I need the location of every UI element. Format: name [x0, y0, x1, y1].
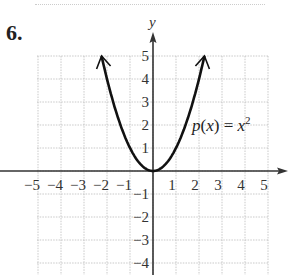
x-tick-label: −1	[116, 177, 132, 193]
x-tick-label: 1	[168, 177, 176, 193]
y-tick-label: −4	[133, 255, 149, 271]
x-tick-label: 5	[260, 177, 268, 193]
x-tick-label: 2	[191, 177, 199, 193]
y-tick-label: 3	[142, 94, 150, 110]
x-tick-label: −3	[70, 177, 86, 193]
y-tick-label: −2	[133, 209, 149, 225]
function-label: p(x) = x2	[191, 114, 251, 135]
y-tick-label: 2	[142, 117, 150, 133]
parabola-chart: y−5−4−3−2−11234554321−1−2−3−4p(x) = x2	[0, 0, 290, 275]
y-tick-label: −3	[133, 232, 149, 248]
x-tick-label: −5	[24, 177, 40, 193]
x-tick-label: −2	[93, 177, 109, 193]
x-tick-label: −4	[47, 177, 63, 193]
y-tick-label: 5	[142, 48, 150, 64]
y-axis-label: y	[147, 14, 156, 30]
x-tick-label: 4	[237, 177, 245, 193]
y-tick-label: 4	[142, 71, 150, 87]
y-tick-label: −1	[133, 186, 149, 202]
x-tick-label: 3	[214, 177, 222, 193]
y-tick-label: 1	[142, 140, 150, 156]
